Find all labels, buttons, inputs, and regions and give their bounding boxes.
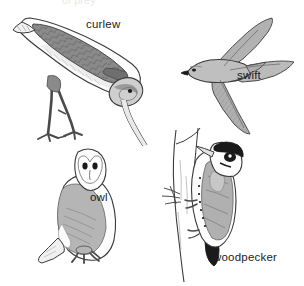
bird-label-owl: owl	[90, 192, 108, 204]
bird-label-curlew: curlew	[86, 19, 120, 31]
woodpecker-eye	[228, 154, 231, 157]
curlew-legs	[38, 76, 82, 142]
owl-tail	[38, 238, 64, 263]
curlew-illustration	[13, 18, 147, 146]
tree-trunk-left-edge	[173, 130, 184, 282]
bird-illustration-plate: of prey	[0, 0, 304, 286]
curlew-eye	[128, 89, 132, 93]
tree-twig	[162, 186, 181, 204]
illustration-canvas	[0, 0, 304, 286]
swift-lower-wing-hatch	[212, 78, 250, 134]
owl-left-eye	[82, 163, 87, 170]
bird-label-woodpecker: woodpecker	[213, 252, 277, 264]
swift-bill	[181, 71, 188, 75]
swift-eye	[192, 68, 196, 71]
tree-bark-texture	[178, 160, 187, 250]
owl-right-eye	[92, 163, 97, 170]
bird-label-swift: swift	[237, 70, 261, 82]
owl-illustration	[38, 149, 115, 263]
owl-beak	[90, 170, 91, 180]
curlew-bill-fill	[121, 100, 147, 146]
